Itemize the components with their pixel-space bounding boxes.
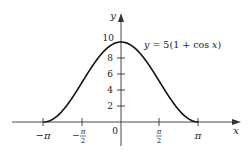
svg-text:2: 2 [157,137,161,145]
x-tick-origin: 0 [112,126,118,136]
equation-label: y = 5(1 + cos x) [143,39,221,50]
svg-text:π: π [156,128,162,136]
x-tick-neg-pi: −π [36,130,51,141]
y-tick-6: 6 [107,69,113,79]
svg-text:−: − [72,130,80,140]
y-tick-4: 4 [107,85,113,95]
y-axis-label: y [109,10,116,21]
y-tick-10: 10 [103,33,115,43]
x-axis-label: x [233,125,239,136]
x-tick-pi: π [194,130,202,141]
y-axis-arrow-icon [118,13,124,22]
x-tick-pi-half: π 2 [156,128,162,145]
svg-text:π: π [80,128,86,136]
svg-text:2: 2 [81,137,85,145]
x-tick-neg-pi-half: − π 2 [72,128,86,145]
y-tick-2: 2 [107,101,113,111]
chart: −π − π 2 0 π 2 π x 2 4 6 8 10 y y = 5(1 … [0,0,251,152]
y-tick-8: 8 [107,53,113,63]
